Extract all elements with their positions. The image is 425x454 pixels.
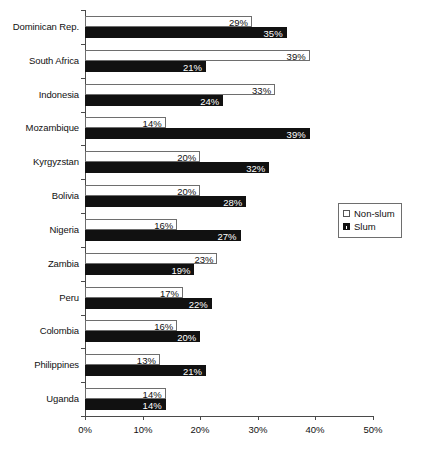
legend-item-label: Slum — [354, 221, 376, 232]
y-axis-tick — [81, 213, 85, 214]
bar-group: 20%28% — [85, 185, 373, 207]
bar-group: 14%39% — [85, 117, 373, 139]
bar-value-label: 27% — [218, 231, 237, 242]
bar-non-slum: 20% — [85, 151, 200, 162]
y-axis-tick — [81, 315, 85, 316]
bar-non-slum: 20% — [85, 185, 200, 196]
y-axis-tick — [81, 145, 85, 146]
bar-non-slum: 16% — [85, 320, 177, 331]
bar-non-slum: 14% — [85, 388, 166, 399]
bar-value-label: 21% — [183, 62, 202, 73]
x-axis-tick — [315, 416, 316, 420]
bar-group: 29%35% — [85, 16, 373, 38]
bar-group: 14%14% — [85, 388, 373, 410]
category-label: Colombia — [0, 325, 79, 336]
y-axis-tick — [81, 382, 85, 383]
bar-group: 17%22% — [85, 287, 373, 309]
bar-slum: 24% — [85, 95, 223, 106]
x-axis-tick — [200, 416, 201, 420]
plot-area: 29%35%39%21%33%24%14%39%20%32%20%28%16%2… — [85, 10, 373, 416]
bar-value-label: 22% — [189, 299, 208, 310]
bar-slum: 14% — [85, 399, 166, 410]
bar-slum: 22% — [85, 298, 212, 309]
legend-item-label: Non-slum — [354, 208, 395, 219]
chart-legend: Non-slumSlum — [338, 203, 402, 238]
y-axis-tick — [81, 179, 85, 180]
bar-slum: 21% — [85, 61, 206, 72]
x-axis-tick — [143, 416, 144, 420]
x-axis-tick — [258, 416, 259, 420]
x-axis-tick-label: 10% — [133, 424, 152, 435]
bar-value-label: 33% — [252, 85, 271, 96]
x-axis-tick-label: 40% — [305, 424, 324, 435]
x-axis-tick-label: 20% — [190, 424, 209, 435]
bar-non-slum: 33% — [85, 84, 275, 95]
category-label: Peru — [0, 292, 79, 303]
y-axis-tick — [81, 78, 85, 79]
bar-non-slum: 29% — [85, 16, 252, 27]
category-label: South Africa — [0, 55, 79, 66]
bar-slum: 20% — [85, 331, 200, 342]
bar-chart: Dominican Rep.South AfricaIndonesiaMozam… — [0, 0, 425, 454]
filled-square-swatch — [343, 223, 350, 230]
bar-slum: 35% — [85, 27, 287, 38]
y-axis-tick — [81, 247, 85, 248]
category-label: Philippines — [0, 359, 79, 370]
bar-group: 16%20% — [85, 320, 373, 342]
x-axis-line — [85, 416, 373, 417]
bar-non-slum: 39% — [85, 50, 310, 61]
bar-non-slum: 17% — [85, 287, 183, 298]
category-label: Uganda — [0, 393, 79, 404]
category-label: Mozambique — [0, 122, 79, 133]
bar-group: 16%27% — [85, 219, 373, 241]
bar-non-slum: 16% — [85, 219, 177, 230]
bar-non-slum: 23% — [85, 253, 217, 264]
bar-slum: 21% — [85, 365, 206, 376]
y-axis-tick — [81, 281, 85, 282]
category-label: Bolivia — [0, 190, 79, 201]
bar-group: 13%21% — [85, 354, 373, 376]
bar-non-slum: 13% — [85, 354, 160, 365]
bar-non-slum: 14% — [85, 117, 166, 128]
y-axis-tick — [81, 348, 85, 349]
bar-slum: 28% — [85, 196, 246, 207]
bar-value-label: 14% — [143, 400, 162, 411]
bar-value-label: 32% — [246, 163, 265, 174]
category-label: Indonesia — [0, 89, 79, 100]
legend-item: Slum — [343, 220, 395, 233]
bar-slum: 19% — [85, 264, 194, 275]
category-label: Zambia — [0, 258, 79, 269]
bar-group: 33%24% — [85, 84, 373, 106]
bar-value-label: 35% — [264, 28, 283, 39]
bar-value-label: 21% — [183, 366, 202, 377]
bar-value-label: 24% — [200, 96, 219, 107]
bar-group: 39%21% — [85, 50, 373, 72]
bar-group: 20%32% — [85, 151, 373, 173]
x-axis-tick-label: 0% — [78, 424, 92, 435]
category-label: Kyrgyzstan — [0, 156, 79, 167]
x-axis-tick — [85, 416, 86, 420]
y-axis-tick — [81, 112, 85, 113]
open-square-swatch — [343, 210, 350, 217]
bar-value-label: 39% — [287, 129, 306, 140]
legend-item: Non-slum — [343, 207, 395, 220]
y-axis-tick — [81, 44, 85, 45]
category-label: Dominican Rep. — [0, 21, 79, 32]
x-axis-tick-label: 30% — [248, 424, 267, 435]
bar-slum: 32% — [85, 162, 269, 173]
bar-value-label: 28% — [223, 197, 242, 208]
bar-value-label: 20% — [177, 332, 196, 343]
x-axis-tick-label: 50% — [363, 424, 382, 435]
bar-value-label: 39% — [287, 51, 306, 62]
x-axis-tick — [373, 416, 374, 420]
bar-value-label: 23% — [194, 254, 213, 265]
category-label: Nigeria — [0, 224, 79, 235]
bar-value-label: 19% — [171, 265, 190, 276]
y-axis-tick — [81, 10, 85, 11]
bar-group: 23%19% — [85, 253, 373, 275]
bar-slum: 27% — [85, 230, 241, 241]
bar-slum: 39% — [85, 128, 310, 139]
